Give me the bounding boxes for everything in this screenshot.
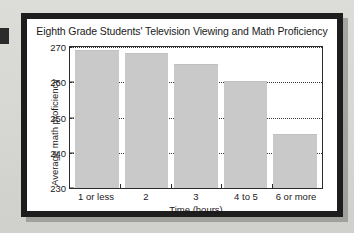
bar-slot <box>171 47 221 188</box>
x-axis-title: Time (hours) <box>69 204 323 215</box>
plot-area: 230240250260270 <box>69 46 323 189</box>
left-edge-marker <box>0 28 9 44</box>
bar-slot <box>221 47 271 188</box>
page-background: Eighth Grade Students' Television Viewin… <box>0 0 354 233</box>
x-tick-mark <box>120 184 121 188</box>
bar[interactable] <box>224 81 268 188</box>
bar-slot <box>72 47 122 188</box>
y-tick-label: 240 <box>50 147 66 158</box>
chart-frame: Eighth Grade Students' Television Viewin… <box>21 13 343 217</box>
y-tick-label: 260 <box>50 77 66 88</box>
x-tick-label: 1 or less <box>71 191 121 202</box>
bar-series <box>70 47 322 188</box>
x-axis-tick-labels: 1 or less234 to 56 or more <box>69 191 323 202</box>
x-tick-mark <box>171 184 172 188</box>
x-tick-label: 2 <box>121 191 171 202</box>
y-tick-label: 230 <box>50 183 66 194</box>
bar[interactable] <box>75 50 119 188</box>
y-tick-label: 270 <box>50 42 66 53</box>
bar[interactable] <box>125 53 169 188</box>
bar[interactable] <box>174 64 218 188</box>
bar-slot <box>122 47 172 188</box>
bar[interactable] <box>273 134 317 188</box>
y-tick-label: 250 <box>50 112 66 123</box>
x-tick-label: 3 <box>171 191 221 202</box>
x-tick-mark <box>272 184 273 188</box>
x-tick-label: 6 or more <box>271 191 321 202</box>
chart-card: Eighth Grade Students' Television Viewin… <box>27 19 337 211</box>
x-tick-label: 4 to 5 <box>221 191 271 202</box>
bar-slot <box>270 47 320 188</box>
x-tick-mark <box>221 184 222 188</box>
page-title: Eighth Grade Students' Television Viewin… <box>27 25 337 37</box>
